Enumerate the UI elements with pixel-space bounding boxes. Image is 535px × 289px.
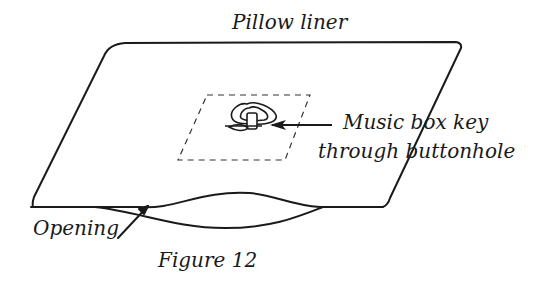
label-music-box-key: Music box key (343, 110, 488, 134)
figure-caption: Figure 12 (158, 248, 257, 272)
label-through-buttonhole: through buttonhole (318, 139, 515, 163)
diagram-title: Pillow liner (232, 10, 347, 34)
label-opening: Opening (33, 216, 119, 240)
